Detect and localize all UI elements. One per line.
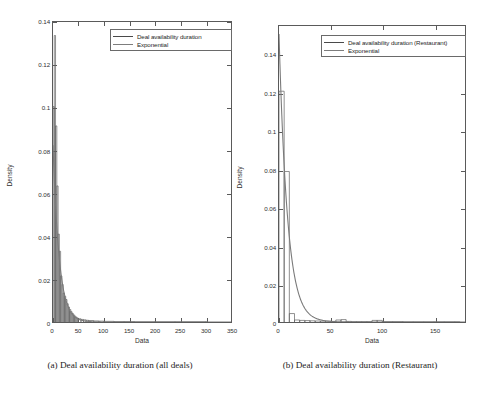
panel-b: Density 0.14 0.12 0.1 0.08 0.06 0.04 0.0… [240,0,480,394]
x-tick-label: 100 [377,327,387,334]
plot-area-b [279,26,465,322]
x-axis-title-a: Data [135,337,149,344]
legend-swatch-line [113,36,133,37]
y-axis-title-a: Density [6,165,13,187]
figure-two-panel-density-plots: Density 0.14 0.12 0.1 0.08 0.06 0.04 0.0… [0,0,481,394]
y-tick-label: 0.02 [20,277,50,284]
legend-swatch-line [324,50,344,51]
y-tick-label: 0.02 [244,282,276,289]
y-tick-label: 0.08 [20,148,50,155]
x-tick-label: 0 [276,327,279,334]
y-tick-label: 0.1 [20,104,50,111]
y-tick-label: 0 [20,320,50,327]
y-tick-label: 0.12 [244,90,276,97]
y-tick-label: 0.04 [244,244,276,251]
y-tick-label: 0.06 [20,191,50,198]
plot-box-b: Deal availability duration (Restaurant) … [278,25,466,323]
legend-a: Deal availability duration Exponential [110,29,232,51]
x-tick-label: 250 [175,327,185,334]
legend-swatch-line [324,42,344,43]
legend-item: Exponential [324,46,462,54]
x-tick-label: 150 [430,327,440,334]
y-tick-label: 0.06 [244,205,276,212]
x-tick-label: 300 [201,327,211,334]
y-tick-label: 0.04 [20,234,50,241]
legend-swatch-line [113,44,133,45]
y-axis-title-b: Density [236,167,243,189]
legend-item: Exponential [113,40,228,48]
y-tick-label: 0.1 [244,128,276,135]
x-tick-label: 0 [50,327,53,334]
x-tick-label: 350 [227,327,237,334]
x-tick-label: 50 [75,327,82,334]
y-tick-label: 0 [244,320,276,327]
plot-box-a: Deal availability duration Exponential [52,21,232,323]
y-tick-label: 0.14 [20,18,50,25]
y-tick-label: 0.12 [20,61,50,68]
legend-label: Deal availability duration [137,33,201,40]
legend-item: Deal availability duration [113,32,228,40]
x-tick-label: 50 [327,327,334,334]
legend-label: Exponential [137,41,168,48]
y-tick-label: 0.14 [244,51,276,58]
x-axis-title-b: Data [365,337,379,344]
legend-label: Exponential [348,47,379,54]
plot-area-a [53,22,231,322]
x-tick-label: 150 [124,327,134,334]
legend-b: Deal availability duration (Restaurant) … [321,35,466,57]
x-tick-label: 100 [98,327,108,334]
legend-item: Deal availability duration (Restaurant) [324,38,462,46]
x-tick-label: 200 [150,327,160,334]
y-tick-label: 0.08 [244,167,276,174]
legend-label: Deal availability duration (Restaurant) [348,39,447,46]
caption-b: (b) Deal availability duration (Restaura… [240,360,480,370]
panel-a: Density 0.14 0.12 0.1 0.08 0.06 0.04 0.0… [0,0,240,394]
caption-a: (a) Deal availability duration (all deal… [0,360,240,370]
